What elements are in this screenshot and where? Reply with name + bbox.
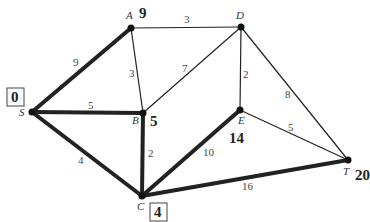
node-label-A: A [125,9,133,21]
node-label-E: E [237,114,245,126]
distance-B: 5 [150,113,158,129]
node-S [29,109,36,116]
edge-S-C [32,112,142,196]
distance-E: 14 [229,130,245,146]
weight-B-D: 7 [182,62,188,74]
edge-S-B [32,112,143,113]
node-label-B: B [132,114,139,126]
edge-S-A [32,28,131,112]
weight-A-B: 3 [129,67,135,79]
node-T [345,157,352,164]
distance-S: 0 [11,89,19,105]
weight-S-B: 5 [88,99,94,111]
edges [32,27,348,196]
edge-D-E [240,27,241,110]
edge-B-C [142,113,143,196]
node-C [139,193,146,200]
node-D [238,24,245,31]
weight-E-T: 5 [288,121,294,133]
edge-weights: 9 5 4 3 3 7 2 2 8 5 10 16 [73,13,294,192]
node-E [237,107,244,114]
node-label-C: C [137,200,145,212]
edge-E-T [240,110,348,160]
node-B [140,110,147,117]
node-label-T: T [343,165,350,177]
weight-A-D: 3 [184,13,190,25]
weight-C-E: 10 [203,146,215,158]
graph-diagram: 9 5 4 3 3 7 2 2 8 5 10 16 S A B C D E T … [0,0,370,222]
distance-T: 20 [355,167,370,183]
edge-D-T [241,27,348,160]
weight-S-C: 4 [78,154,84,166]
edge-B-D [143,27,241,113]
weight-D-T: 8 [285,88,291,100]
distance-A: 9 [139,5,147,21]
node-label-S: S [19,106,25,118]
node-label-D: D [235,9,244,21]
node-A [128,25,135,32]
distance-C: 4 [154,204,162,220]
edge-A-D [131,27,241,28]
weight-D-E: 2 [243,68,249,80]
weight-S-A: 9 [73,56,79,68]
weight-C-T: 16 [242,180,254,192]
weight-B-C: 2 [148,147,154,159]
